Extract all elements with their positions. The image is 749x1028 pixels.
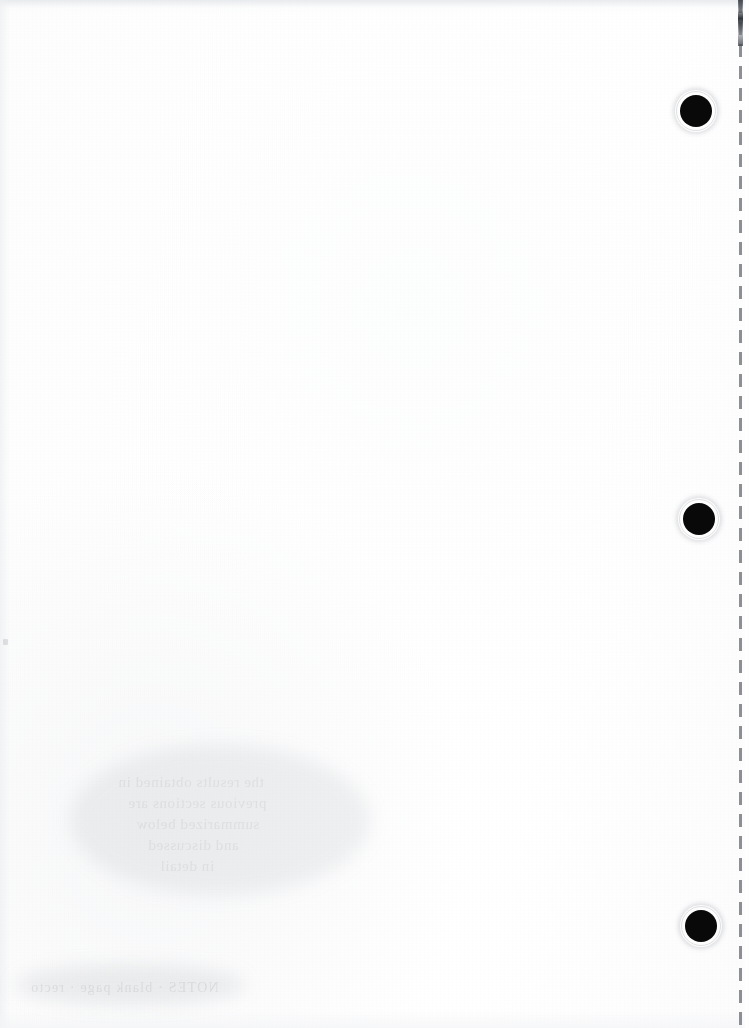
scan-left-edge-shadow [0,0,10,1028]
right-binding-margin [742,0,749,1028]
ghost-line-3: summarized below [136,814,259,836]
ghost-line-4: and discussed [148,835,239,857]
ghost-line-2: previous sections are [128,793,266,815]
punch-hole-top [680,95,712,127]
edge-speck [3,639,8,645]
punch-hole-rim [676,91,716,131]
scan-top-edge-shadow [0,0,749,14]
punch-hole-rim [681,906,721,946]
scanned-page: the results obtained in previous section… [0,0,749,1028]
punch-hole-middle [683,503,715,535]
perforation-top-mark [738,0,743,46]
perforation-dashed-line [739,0,742,1028]
punch-hole-rim [679,499,719,539]
scan-bottom-edge-shadow [0,1010,749,1028]
ghost-line-1: the results obtained in [118,772,264,794]
punch-hole-bottom [685,910,717,942]
ghost-line-5: in detail [160,856,214,878]
ghost-footer-text: NOTES · blank page · recto [30,980,219,996]
